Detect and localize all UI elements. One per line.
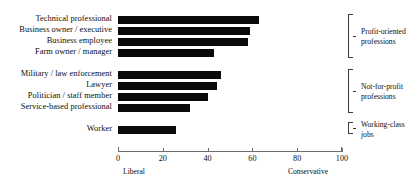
category-label-military-law-enforcement: Military / law enforcement	[0, 69, 112, 78]
category-label-farm-owner-manager: Farm owner / manager	[0, 47, 112, 56]
bar-technical-professional	[118, 16, 259, 24]
x-tick-label: 60	[239, 154, 265, 163]
group-bracket-nub	[353, 36, 356, 37]
x-tick-mark	[252, 148, 253, 152]
category-label-business-owner-executive: Business owner / executive	[0, 25, 112, 34]
category-label-politician-staff-member: Politician / staff member	[0, 91, 112, 100]
bar-service-based-professional	[118, 104, 190, 112]
x-tick-label: 40	[195, 154, 221, 163]
x-tick-mark	[163, 148, 164, 152]
bar-worker	[118, 126, 176, 134]
axis-caption-liberal: Liberal	[123, 167, 145, 176]
bar-military-law-enforcement	[118, 71, 221, 79]
bar-business-employee	[118, 38, 248, 46]
x-axis-line	[118, 151, 342, 152]
x-tick-label: 20	[150, 154, 176, 163]
category-label-worker: Worker	[0, 124, 112, 133]
group-label-line-1: Working-class	[361, 120, 405, 130]
x-tick-mark	[208, 148, 209, 152]
x-tick-mark	[297, 148, 298, 152]
x-tick-label: 0	[105, 154, 131, 163]
category-label-business-employee: Business employee	[0, 36, 112, 45]
category-label-lawyer: Lawyer	[0, 80, 112, 89]
x-tick-mark	[118, 148, 119, 152]
group-label-line-1: Not-for-profit	[361, 82, 403, 92]
plot-area	[118, 8, 342, 148]
category-label-technical-professional: Technical professional	[0, 14, 112, 23]
bar-business-owner-executive	[118, 27, 250, 35]
x-tick-label: 100	[329, 154, 355, 163]
horizontal-bar-chart: Technical professional Business owner / …	[0, 0, 406, 182]
group-label-line-2: professions	[361, 37, 406, 47]
group-label-line-1: Profit-oriented	[361, 27, 406, 37]
bar-farm-owner-manager	[118, 49, 214, 57]
group-label-line-2: professions	[361, 92, 403, 102]
axis-caption-conservative: Conservative	[288, 167, 328, 176]
category-label-service-based-professional: Service-based professional	[0, 102, 112, 111]
category-axis-labels: Technical professional Business owner / …	[0, 0, 112, 182]
group-label-profit-oriented: Profit-oriented professions	[361, 27, 406, 46]
x-tick-label: 80	[284, 154, 310, 163]
group-label-line-2: jobs	[361, 130, 405, 140]
bar-lawyer	[118, 82, 217, 90]
group-label-not-for-profit: Not-for-profit professions	[361, 82, 403, 101]
group-bracket-nub	[353, 128, 356, 129]
group-label-working-class: Working-class jobs	[361, 120, 405, 139]
x-tick-mark	[342, 148, 343, 152]
group-bracket-nub	[353, 91, 356, 92]
bar-politician-staff-member	[118, 93, 208, 101]
